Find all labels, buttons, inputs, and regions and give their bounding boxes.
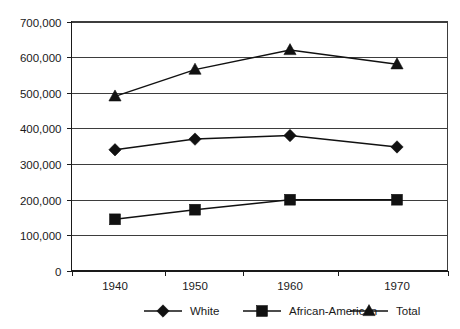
y-axis-tick-label: 100,000: [20, 230, 62, 242]
square-marker-icon: [285, 194, 296, 205]
y-axis-tick-label: 0: [55, 266, 61, 278]
x-axis-tick-label: 1940: [102, 280, 128, 292]
y-axis-tick-label: 300,000: [20, 159, 62, 171]
x-axis-tick-label: 1960: [277, 280, 303, 292]
line-chart: 0100,000200,000300,000400,000500,000600,…: [0, 0, 460, 329]
legend-label: Total: [396, 305, 420, 317]
y-axis-tick-label: 200,000: [20, 195, 62, 207]
y-axis-tick-label: 700,000: [20, 17, 62, 29]
square-marker-icon: [392, 194, 403, 205]
square-marker-icon: [190, 204, 201, 215]
square-marker-icon: [110, 214, 121, 225]
y-axis-tick-label: 400,000: [20, 123, 62, 135]
y-axis-tick-label: 500,000: [20, 88, 62, 100]
x-axis-tick-label: 1970: [384, 280, 410, 292]
square-marker-icon: [257, 306, 268, 317]
x-axis-tick-label: 1950: [182, 280, 208, 292]
legend-label: White: [190, 305, 219, 317]
y-axis-tick-label: 600,000: [20, 52, 62, 64]
chart-canvas: 0100,000200,000300,000400,000500,000600,…: [0, 0, 460, 329]
